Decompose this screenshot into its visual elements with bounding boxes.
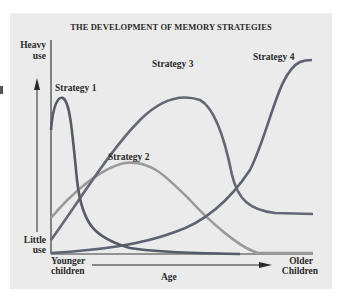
chart-title: THE DEVELOPMENT OF MEMORY STRATEGIES [10, 22, 332, 33]
strategy-2-line [51, 163, 313, 253]
y-bottom-label-2: use [6, 245, 46, 256]
strategy-3-line [51, 97, 313, 240]
x-arrow-head-icon [259, 262, 272, 268]
y-arrow-head-icon [34, 78, 40, 90]
strategy-3-label: Strategy 3 [152, 59, 193, 70]
strategy-2-label: Strategy 2 [108, 152, 149, 163]
x-start-label-2: children [51, 266, 85, 277]
x-axis-label: Age [161, 272, 177, 283]
chart-plot [0, 0, 338, 297]
strategy-1-label: Strategy 1 [55, 83, 96, 94]
y-top-label-1: Heavy [6, 40, 46, 51]
x-end-label-2: Children [275, 266, 325, 277]
y-top-label-2: use [6, 51, 46, 62]
strategy-1-line [51, 98, 240, 254]
strategy-4-label: Strategy 4 [253, 52, 294, 63]
